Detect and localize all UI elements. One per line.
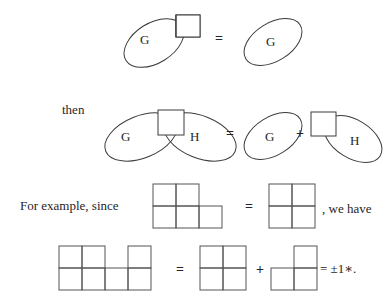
row1-blob-with-square [118, 10, 208, 72]
row2-blob-label-h-right: H [350, 134, 359, 147]
row2-blob-right-label-g: G [265, 130, 274, 143]
row1-blob-right-label-g: G [266, 35, 275, 48]
row3-equals-operator: = [245, 200, 253, 214]
row1-equals-operator: = [215, 32, 223, 46]
row3-for-example-label: For example, since [20, 199, 119, 212]
row2-blob-label-g: G [121, 130, 130, 143]
row4-polyomino-square-2x2 [199, 245, 251, 293]
row4-plus-operator: + [256, 263, 264, 277]
row2-then-label: then [62, 103, 84, 116]
row3-we-have-label: , we have [322, 202, 371, 215]
row3-polyomino-p-shape [152, 183, 232, 231]
polyomino-l-triomino-svg [270, 245, 322, 293]
row2-plus-operator: + [296, 127, 304, 141]
figure-canvas: G = G then G H = G + H For example, si [0, 0, 391, 303]
row4-polyomino-l-triomino [270, 245, 322, 293]
row2-square-with-blob-h [306, 104, 391, 166]
row4-result-label: = ±1∗. [320, 262, 356, 275]
polyomino-seven-cell-svg [58, 245, 160, 293]
square-blob-h-svg [306, 104, 391, 166]
row2-equals-operator: = [226, 127, 234, 141]
row3-polyomino-square-2x2 [268, 183, 320, 231]
row4-polyomino-seven-cell [58, 245, 160, 293]
row2-blob-label-h: H [190, 130, 199, 143]
polyomino-square-2x2-b-svg [199, 245, 251, 293]
polyomino-p-shape-5cell-svg [152, 183, 232, 231]
row4-equals-operator: = [176, 263, 184, 277]
row1-blob-label-g: G [140, 33, 149, 46]
polyomino-square-2x2-svg [268, 183, 320, 231]
blob-g-with-square-svg [118, 10, 208, 72]
